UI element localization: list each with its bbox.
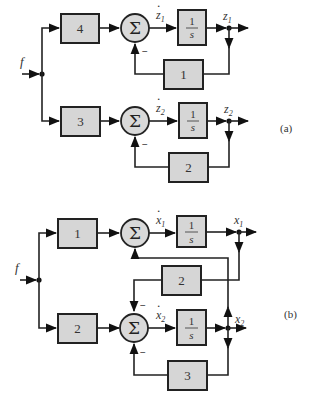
output-label-z2: z2 bbox=[223, 102, 233, 118]
svg-text:·: · bbox=[157, 91, 161, 106]
gain-block-top: 1 bbox=[58, 219, 97, 248]
svg-text:2: 2 bbox=[178, 273, 185, 288]
wire-to-gain-3 bbox=[42, 74, 59, 121]
svg-text:3: 3 bbox=[184, 368, 191, 383]
svg-text:s: s bbox=[189, 233, 193, 245]
diagram-tag-b: (b) bbox=[284, 308, 297, 321]
feedback-gain-block-bottom: 2 bbox=[169, 153, 208, 182]
feedback-wire-bottom-right bbox=[207, 346, 228, 375]
svg-text:3: 3 bbox=[77, 114, 84, 129]
feedback-wire-bottom-left bbox=[135, 137, 169, 167]
feedback-sign-top: − bbox=[142, 46, 148, 57]
feedback-wire-bottom-right bbox=[208, 139, 229, 167]
svg-text:s: s bbox=[191, 121, 195, 133]
wire-to-gain-2 bbox=[39, 280, 56, 328]
summing-junction-bottom: Σ bbox=[121, 107, 149, 135]
output-label-z1: z1 bbox=[222, 9, 232, 25]
feedback-gain-block-top: 1 bbox=[164, 60, 203, 89]
cross-sign: − bbox=[140, 300, 146, 311]
feedback-wire-top-left bbox=[135, 44, 164, 74]
output-label-x2: x2 bbox=[234, 312, 244, 328]
svg-text:s: s bbox=[189, 329, 193, 341]
gain-block-bottom: 3 bbox=[61, 107, 100, 136]
wire-to-gain-1 bbox=[39, 233, 56, 280]
svg-text:1: 1 bbox=[190, 108, 196, 120]
derivative-label-x2: x2 · bbox=[155, 298, 165, 324]
block-diagram-canvas: f 4 Σ z1 · 1 s z1 bbox=[0, 0, 310, 401]
svg-text:4: 4 bbox=[77, 21, 84, 36]
input-label-f: f bbox=[20, 54, 26, 69]
svg-text:2: 2 bbox=[185, 160, 192, 175]
svg-text:s: s bbox=[190, 28, 194, 40]
svg-text:·: · bbox=[157, 0, 161, 13]
integrator-block-top: 1 s bbox=[177, 216, 206, 247]
svg-text:1: 1 bbox=[180, 67, 187, 82]
svg-text:Σ: Σ bbox=[129, 18, 141, 38]
derivative-label-z2: z2 · bbox=[155, 91, 165, 117]
integrator-block-bottom: 1 s bbox=[179, 103, 207, 138]
feedback-gain-block-bottom: 3 bbox=[168, 361, 207, 390]
wire-to-gain-4 bbox=[42, 28, 59, 74]
summing-junction-top: Σ bbox=[121, 14, 149, 42]
feedback-sign-bottom: − bbox=[140, 347, 146, 358]
feedback-wire-top-right bbox=[203, 46, 229, 74]
svg-text:Σ: Σ bbox=[128, 318, 140, 338]
summing-junction-bottom: Σ bbox=[120, 314, 148, 342]
svg-text:1: 1 bbox=[189, 219, 195, 231]
svg-text:·: · bbox=[157, 203, 161, 218]
diagram-b: f 1 Σ x1 · 1 s x1 bbox=[15, 203, 297, 390]
diagram-tag-a: (a) bbox=[280, 122, 293, 135]
svg-text:·: · bbox=[157, 298, 161, 313]
summing-junction-top: Σ bbox=[121, 219, 149, 247]
svg-text:1: 1 bbox=[189, 315, 195, 327]
cross-gain-block: 2 bbox=[162, 266, 201, 295]
feedback-sign-bottom: − bbox=[142, 139, 148, 150]
input-label-f: f bbox=[15, 260, 21, 275]
svg-text:1: 1 bbox=[74, 226, 81, 241]
svg-text:Σ: Σ bbox=[129, 223, 141, 243]
derivative-label-x1: x1 · bbox=[155, 203, 165, 229]
integrator-block-top: 1 s bbox=[178, 10, 206, 45]
x1-to-cross-gain-wire bbox=[201, 250, 239, 280]
gain-block-top: 4 bbox=[61, 14, 99, 43]
svg-text:Σ: Σ bbox=[129, 111, 141, 131]
derivative-label-z1: z1 · bbox=[155, 0, 165, 24]
integrator-block-bottom: 1 s bbox=[177, 310, 206, 345]
diagram-a: f 4 Σ z1 · 1 s z1 bbox=[20, 0, 293, 182]
gain-block-bottom: 2 bbox=[58, 314, 97, 343]
svg-text:1: 1 bbox=[189, 15, 195, 27]
output-label-x1: x1 bbox=[233, 213, 243, 229]
svg-text:2: 2 bbox=[74, 321, 81, 336]
